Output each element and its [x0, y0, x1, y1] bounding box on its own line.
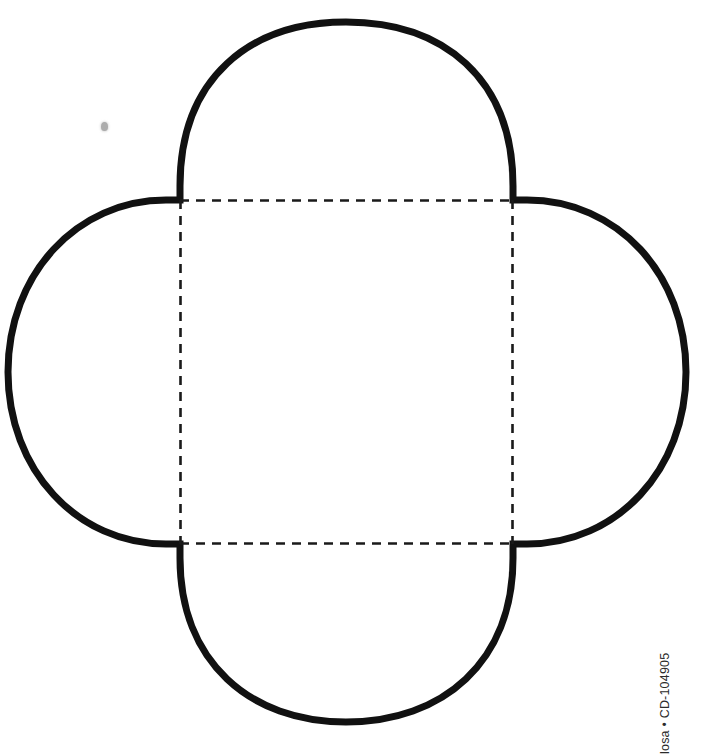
scan-smudge-artifact	[101, 122, 108, 131]
